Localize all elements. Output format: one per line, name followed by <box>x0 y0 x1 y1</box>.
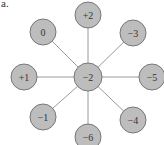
node-plus1: +1 <box>11 64 37 90</box>
node-label: −5 <box>147 72 158 83</box>
node-minus4: −4 <box>120 107 146 133</box>
center-node: −2 <box>74 63 102 91</box>
node-minus6: −6 <box>75 124 101 145</box>
node-minus5: −5 <box>139 64 164 90</box>
node-minus1: −1 <box>30 104 56 130</box>
node-minus3: −3 <box>120 20 146 46</box>
node-plus2: +2 <box>75 2 101 28</box>
node-label: 0 <box>41 27 46 38</box>
node-label: −6 <box>83 132 94 143</box>
node-label: −1 <box>38 112 49 123</box>
node-label: −4 <box>128 115 139 126</box>
node-zero: 0 <box>30 19 56 45</box>
node-label: +1 <box>19 72 30 83</box>
star-graph: +2 −3 −5 −4 −6 −1 +1 0 <box>0 0 164 145</box>
center-node-label: −2 <box>83 72 94 83</box>
node-label: +2 <box>83 10 94 21</box>
node-label: −3 <box>128 28 139 39</box>
